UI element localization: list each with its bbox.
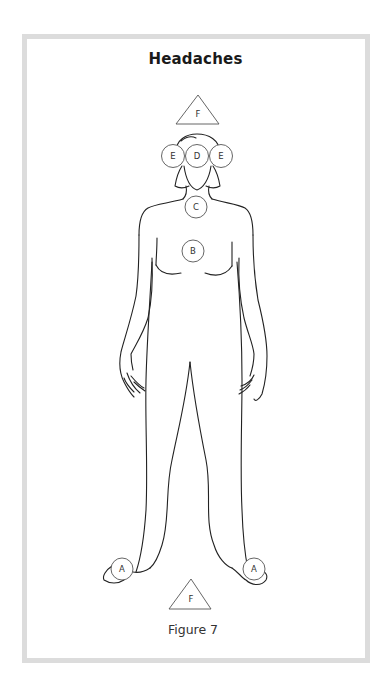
marker-d: D [186, 145, 209, 168]
svg-text:F: F [196, 109, 201, 119]
svg-text:E: E [218, 151, 223, 161]
marker-c: C [185, 196, 207, 218]
marker-f-top: F [176, 95, 219, 124]
svg-text:A: A [119, 564, 125, 574]
svg-text:A: A [251, 564, 257, 574]
marker-e-left: E [162, 145, 185, 168]
svg-text:C: C [193, 202, 199, 212]
marker-a-left: A [111, 558, 133, 580]
marker-e-right: E [210, 145, 233, 168]
svg-text:D: D [194, 151, 201, 161]
svg-text:F: F [189, 594, 194, 604]
body-outline-diagram: F E D E C B A [0, 0, 391, 685]
body-outline [103, 134, 267, 585]
marker-b: B [182, 240, 204, 262]
svg-text:B: B [190, 246, 196, 256]
svg-text:E: E [170, 151, 175, 161]
marker-f-bottom: F [169, 579, 211, 609]
marker-a-right: A [243, 558, 265, 580]
figure-caption: Figure 7 [0, 622, 386, 637]
